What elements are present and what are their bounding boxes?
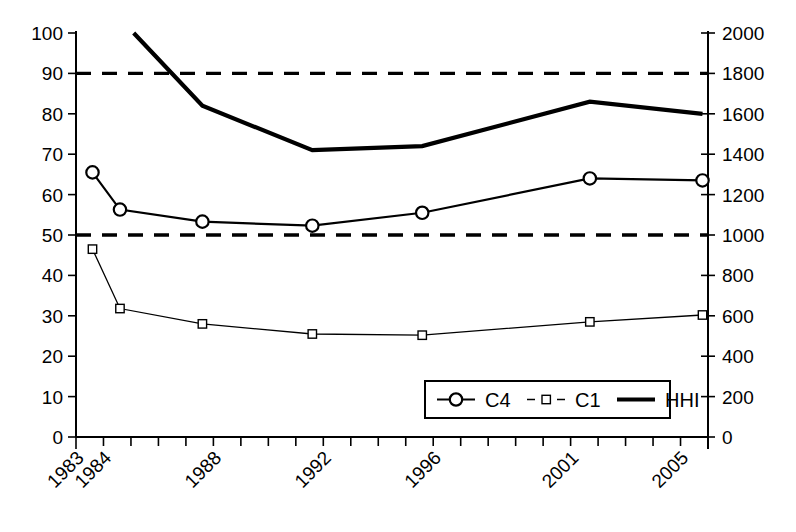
legend-marker-square-icon <box>542 395 550 403</box>
data-point-c4 <box>86 166 98 178</box>
data-point-c1 <box>198 320 206 328</box>
data-point-c1 <box>308 330 316 338</box>
legend-label: C1 <box>575 389 601 411</box>
y-axis-left-tick-label: 100 <box>31 23 63 44</box>
data-point-c4 <box>114 203 126 215</box>
y-axis-left-tick-label: 10 <box>42 387 63 408</box>
data-point-c1 <box>88 245 96 253</box>
legend-label: C4 <box>485 389 511 411</box>
concentration-line-chart: 0102030405060708090100 02004006008001000… <box>0 0 796 532</box>
chart-legend: C4C1HHI <box>425 381 699 418</box>
data-point-c4 <box>306 220 318 232</box>
chart-container: 0102030405060708090100 02004006008001000… <box>0 0 796 532</box>
y-axis-right-tick-label: 800 <box>722 265 754 286</box>
y-axis-left-tick-label: 20 <box>42 346 63 367</box>
y-axis-right-tick-label: 1000 <box>722 225 764 246</box>
y-axis-left-tick-label: 80 <box>42 104 63 125</box>
y-axis-right-tick-label: 1600 <box>722 104 764 125</box>
y-axis-left-tick-label: 50 <box>42 225 63 246</box>
y-axis-left-tick-label: 40 <box>42 265 63 286</box>
legend-marker-circle-icon <box>450 393 462 405</box>
y-axis-left-tick-label: 70 <box>42 144 63 165</box>
y-axis-right-tick-label: 600 <box>722 306 754 327</box>
y-axis-right-tick-label: 2000 <box>722 23 764 44</box>
y-axis-right-tick-label: 1200 <box>722 185 764 206</box>
y-axis-left-tick-label: 90 <box>42 63 63 84</box>
data-point-c4 <box>416 207 428 219</box>
y-axis-left-tick-label: 30 <box>42 306 63 327</box>
y-axis-left-tick-label: 60 <box>42 185 63 206</box>
data-point-c1 <box>698 311 706 319</box>
legend-label: HHI <box>665 389 699 411</box>
data-point-c1 <box>116 304 124 312</box>
y-axis-right-tick-label: 200 <box>722 387 754 408</box>
y-axis-right-tick-label: 0 <box>722 427 733 448</box>
data-point-c1 <box>418 331 426 339</box>
data-point-c4 <box>696 174 708 186</box>
y-axis-left-tick-label: 0 <box>52 427 63 448</box>
data-point-c4 <box>196 215 208 227</box>
y-axis-right-tick-label: 400 <box>722 346 754 367</box>
y-axis-right-tick-label: 1400 <box>722 144 764 165</box>
data-point-c4 <box>584 172 596 184</box>
data-point-c1 <box>586 318 594 326</box>
y-axis-right-tick-label: 1800 <box>722 63 764 84</box>
